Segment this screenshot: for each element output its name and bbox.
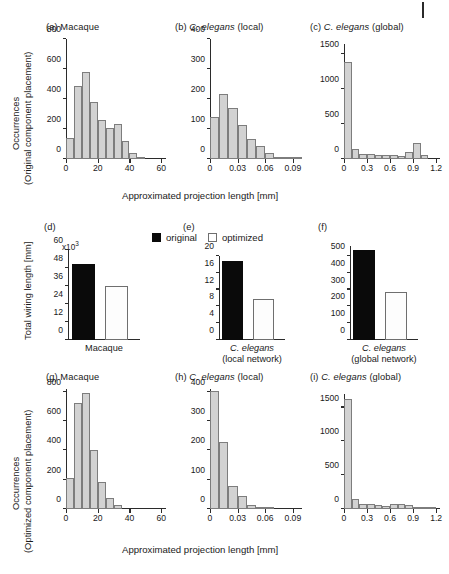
panel-b-ytick-4-mark (207, 38, 211, 39)
panel-i-ytick-1: 500 (325, 460, 339, 470)
panel-a-ytick-2-mark (63, 98, 67, 99)
panel-f-bars (350, 246, 418, 340)
panel-e-category-label-line2: (local network) (222, 354, 282, 364)
panel-h-ytick-0: 0 (200, 494, 205, 504)
panel-e-plot: 048121620 (219, 256, 285, 340)
bar-optimized (253, 299, 274, 340)
panel-e-ytick-1: 4 (209, 308, 214, 318)
y-axis-label-bottom-line1: Occurrences (10, 457, 21, 510)
panel-c-ytick-2: 1000 (320, 74, 339, 84)
panel-i-xtick-2: 0.6 (384, 513, 396, 523)
histogram-bar (359, 504, 367, 509)
panel-c-xtick-1-mark (367, 159, 368, 163)
panel-g-ytick-2: 400 (47, 435, 61, 445)
panel-d-category-label: Macaque (85, 343, 123, 353)
panel-a-xtick-2-mark (129, 159, 130, 163)
panel-b-ytick-3-mark (207, 68, 211, 69)
panel-b-ytick-1: 100 (191, 114, 205, 124)
panel-b-ytick-4: 400 (191, 24, 205, 34)
panel-a-ytick-4-mark (63, 38, 67, 39)
histogram-bar (256, 146, 265, 159)
histogram-bar (344, 399, 352, 509)
panel-b-xtick-2-mark (265, 159, 266, 163)
panel-d-ytick-5-mark (65, 249, 69, 250)
panel-b-xtick-0: 0 (208, 163, 213, 173)
panel-e-species: C. elegans (230, 343, 274, 353)
panel-d-ytick-2: 24 (53, 289, 63, 299)
panel-g-ytick-4-mark (63, 391, 67, 392)
panel-f-ytick-0: 0 (340, 325, 345, 335)
panel-b-ytick-2: 200 (191, 84, 205, 94)
panel-h-xtick-1: 0.03 (229, 513, 246, 523)
histogram-bar (265, 507, 274, 509)
panel-b-bars (210, 39, 302, 159)
panel-f-ytick-2-mark (347, 305, 351, 306)
panel-e-ytick-4-mark (216, 272, 220, 273)
panel-f-category-label-line1: C. elegans (362, 343, 406, 353)
histogram-bar (137, 157, 145, 159)
panel-e-ytick-0-mark (216, 339, 220, 340)
panel-f-ytick-4-mark (347, 272, 351, 273)
panel-h-ytick-4-mark (207, 391, 211, 392)
panel-i-scope: (global) (369, 372, 401, 382)
panel-c-ytick-2-mark (341, 88, 345, 89)
panel-a-ytick-1: 200 (47, 114, 61, 124)
panel-c-scope: (global) (372, 22, 404, 32)
panel-i-species: C. elegans (321, 372, 366, 382)
panel-f-category-label-line2: (global network) (351, 354, 416, 364)
panel-c-species: C. elegans (324, 22, 369, 32)
panel-c-ytick-3: 1500 (320, 39, 339, 49)
panel-b-xtick-0-mark (210, 159, 211, 163)
panel-i-xtick-2-mark (390, 509, 391, 513)
panel-b-ytick-3: 300 (191, 54, 205, 64)
panel-b-xtick-1: 0.03 (229, 163, 246, 173)
histogram-bar (274, 157, 283, 159)
histogram-bar (82, 72, 90, 159)
panel-d-title: (d) (44, 222, 56, 232)
panel-i-ytick-1-mark (341, 474, 345, 475)
panel-h-tag: (h) (175, 372, 187, 382)
panel-i-title: (i) C. elegans (global) (310, 372, 401, 382)
panel-i-plot: 05001000150000.30.60.91.2 (344, 394, 440, 509)
panel-c-title: (c) C. elegans (global) (310, 22, 404, 32)
panel-b-xtick-1-mark (238, 159, 239, 163)
histogram-bar (398, 504, 406, 509)
histogram-bar (82, 393, 90, 509)
panel-c-ytick-0: 0 (334, 144, 339, 154)
histogram-bar (405, 505, 413, 509)
panel-f-ytick-0-mark (347, 339, 351, 340)
bar-optimized (385, 292, 407, 340)
panel-c-ytick-1-mark (341, 123, 345, 124)
histogram-bar (129, 153, 137, 159)
panel-g-xtick-1: 20 (93, 513, 103, 523)
panel-e-ytick-5: 20 (204, 241, 214, 251)
panel-h-xtick-0: 0 (208, 513, 213, 523)
legend-swatch-original (152, 233, 161, 242)
panel-g-xtick-3: 60 (156, 513, 166, 523)
panel-i-ytick-3: 1500 (320, 393, 339, 403)
histogram-bar (352, 149, 360, 159)
panel-h-ytick-1-mark (207, 479, 211, 480)
panel-b-plot: 010020030040000.030.060.09 (210, 39, 302, 159)
panel-g-xtick-2: 40 (125, 513, 135, 523)
panel-i-ytick-2: 1000 (320, 426, 339, 436)
histogram-bar (122, 141, 130, 159)
panel-g-xtick-1-mark (98, 509, 99, 513)
panel-g-bars (66, 389, 166, 509)
panel-d-bars (68, 250, 140, 340)
histogram-bar (398, 156, 406, 159)
panel-a-name: Macaque (60, 22, 99, 32)
panel-f-species: C. elegans (362, 343, 406, 353)
panel-e-bars (219, 256, 285, 340)
panel-d-ytick-0: 0 (58, 325, 63, 335)
histogram-bar (90, 102, 98, 159)
panel-d-ytick-3: 36 (53, 271, 63, 281)
histogram-bar (66, 138, 74, 159)
panel-i-xtick-3-mark (413, 509, 414, 513)
panel-d-exponent-power: 3 (75, 240, 79, 247)
histogram-bar (114, 505, 122, 509)
panel-i-xtick-0-mark (344, 509, 345, 513)
histogram-bar (428, 507, 436, 509)
panel-f-ytick-1: 100 (331, 308, 345, 318)
histogram-bar (352, 499, 360, 509)
